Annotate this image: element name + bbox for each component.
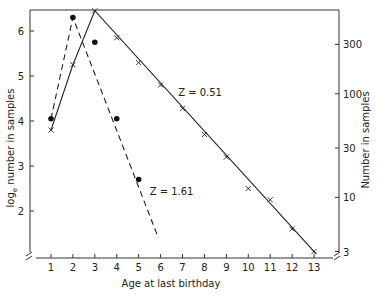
series-crosses xyxy=(49,8,317,254)
cross-marker-icon xyxy=(312,249,317,254)
dot-marker-icon xyxy=(92,39,98,45)
x-axis-label: Age at last birthday xyxy=(122,278,221,289)
y2-tick-label: 300 xyxy=(343,39,362,50)
cross-marker-icon xyxy=(268,197,273,202)
x-axis-ticks: 12345678910111213 xyxy=(48,254,321,273)
cross-marker-icon xyxy=(114,35,119,40)
y-tick-label: 6 xyxy=(18,26,24,37)
cross-marker-icon xyxy=(136,60,141,65)
y-tick-label: 2 xyxy=(18,206,24,217)
cross-marker-icon xyxy=(92,8,97,13)
dot-marker-icon xyxy=(48,116,54,122)
annotations: Z = 0.51Z = 1.61 xyxy=(150,87,222,197)
dot-marker-icon xyxy=(136,177,142,183)
cross-marker-icon xyxy=(70,62,75,67)
x-tick-label: 4 xyxy=(114,262,120,273)
dot-marker-icon xyxy=(70,15,76,21)
z-annotation: Z = 1.61 xyxy=(150,186,194,197)
x-tick-label: 5 xyxy=(135,262,141,273)
left-axis-break-icon xyxy=(26,252,32,260)
x-tick-label: 11 xyxy=(264,262,277,273)
x-tick-label: 6 xyxy=(157,262,163,273)
y-tick-label: 5 xyxy=(18,71,24,82)
series-group xyxy=(48,8,316,254)
y-axis-label: loge number in samples xyxy=(5,89,19,208)
x-tick-label: 12 xyxy=(286,262,299,273)
x-tick-label: 13 xyxy=(308,262,321,273)
plot-frame xyxy=(26,10,340,260)
right-axis-break-icon xyxy=(334,252,340,260)
z-annotation: Z = 0.51 xyxy=(178,87,222,98)
x-tick-label: 3 xyxy=(92,262,98,273)
x-tick-label: 7 xyxy=(179,262,185,273)
x-tick-label: 10 xyxy=(242,262,255,273)
y-axis-ticks: 23456 xyxy=(18,26,34,217)
x-tick-label: 2 xyxy=(70,262,76,273)
y2-axis-label: Number in samples xyxy=(360,91,371,188)
x-tick-label: 8 xyxy=(201,262,207,273)
y2-tick-label: 3 xyxy=(343,247,349,258)
y2-tick-label: 10 xyxy=(343,192,356,203)
cross-marker-icon xyxy=(246,186,251,191)
cross-marker-icon xyxy=(49,128,54,133)
y-tick-label: 4 xyxy=(18,116,24,127)
chart-figure: 23456 30010030103 12345678910111213 Z = … xyxy=(0,0,377,295)
cross-marker-icon xyxy=(202,132,207,137)
series-dots xyxy=(48,15,158,238)
x-tick-label: 1 xyxy=(48,262,54,273)
x-tick-label: 9 xyxy=(223,262,229,273)
dot-marker-icon xyxy=(114,116,120,122)
series-line xyxy=(51,18,158,239)
series-line xyxy=(51,11,316,254)
y-tick-label: 3 xyxy=(18,161,24,172)
y2-tick-label: 30 xyxy=(343,143,356,154)
